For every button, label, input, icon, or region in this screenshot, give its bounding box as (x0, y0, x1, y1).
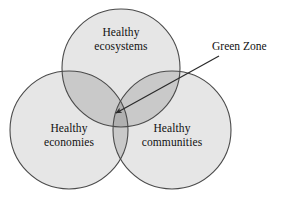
green-zone-annotation-label: Green Zone (212, 40, 267, 54)
venn-diagram: Healthy ecosystems Healthy economies Hea… (0, 0, 286, 203)
venn-graphic (0, 0, 286, 203)
circle-fills (10, 9, 231, 189)
